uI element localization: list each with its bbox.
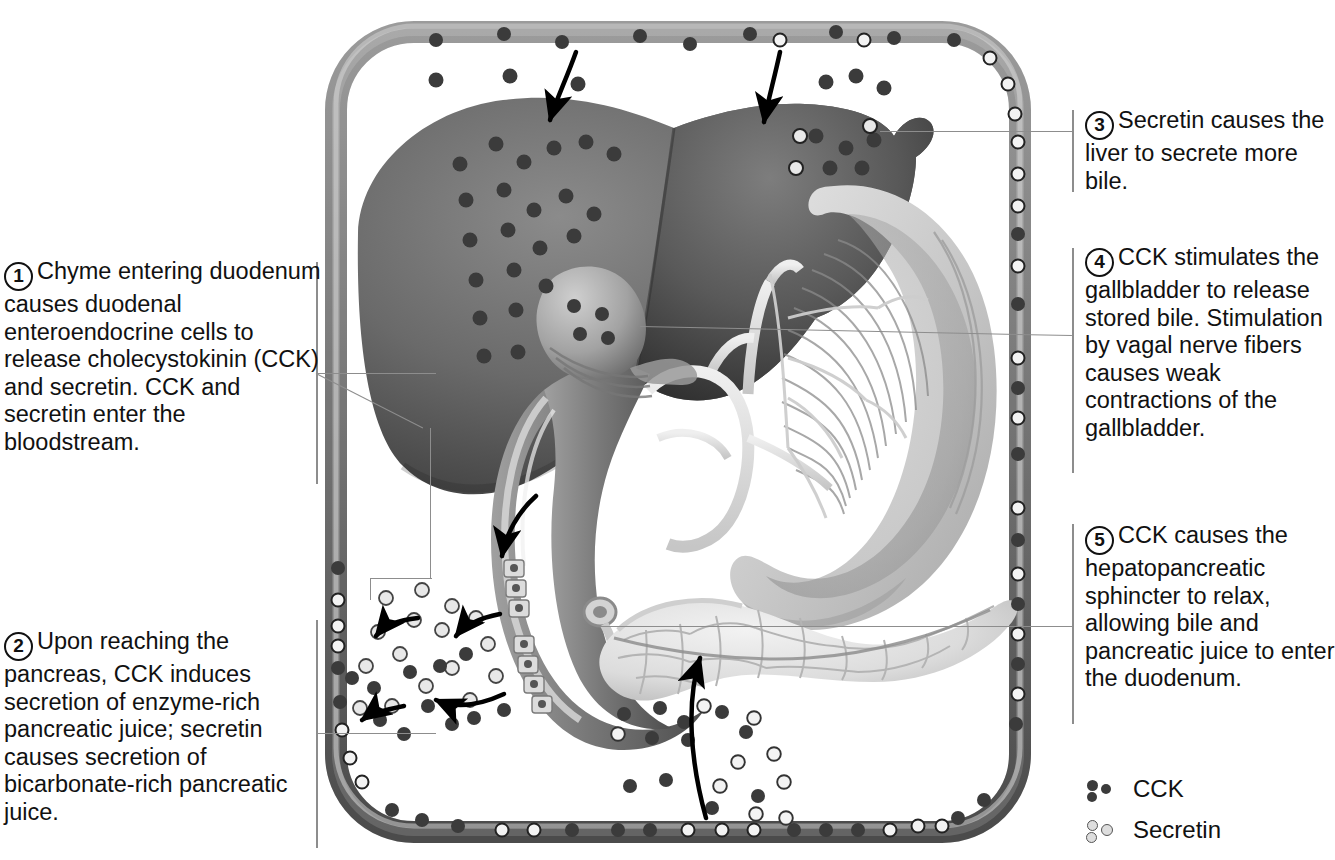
callout-2: 2Upon reaching the pancreas, CCK induces… bbox=[4, 628, 324, 826]
legend-label-cck: CCK bbox=[1133, 768, 1184, 809]
filled-dot-cluster-icon bbox=[1085, 776, 1125, 802]
legend-label-secretin: Secretin bbox=[1133, 809, 1221, 850]
callout-1-number: 1 bbox=[4, 262, 33, 291]
callout-1-text: Chyme entering duodenum causes duodenal … bbox=[4, 258, 320, 455]
leader-callout-1-foot-tick bbox=[370, 578, 371, 600]
figure-root: 1Chyme entering duodenum causes duodenal… bbox=[0, 0, 1335, 860]
bracket-callout-3 bbox=[1072, 110, 1074, 192]
open-circle-cluster-icon bbox=[1085, 817, 1125, 843]
callout-5: 5CCK causes the hepatopancreatic sphinct… bbox=[1085, 522, 1335, 693]
callout-5-number: 5 bbox=[1085, 526, 1114, 555]
legend: CCK Secretin bbox=[1085, 768, 1221, 850]
callout-2-number: 2 bbox=[4, 632, 33, 661]
leader-callout-5 bbox=[600, 626, 1072, 627]
leader-callout-3 bbox=[880, 131, 1072, 132]
callout-3-text: Secretin causes the liver to secrete mor… bbox=[1085, 107, 1324, 194]
callout-4-text: CCK stimulates the gallbladder to releas… bbox=[1085, 244, 1323, 441]
leader-callout-2 bbox=[316, 733, 436, 734]
callout-4-number: 4 bbox=[1085, 248, 1114, 277]
bracket-callout-5 bbox=[1072, 524, 1074, 724]
callout-3-number: 3 bbox=[1085, 111, 1114, 140]
legend-item-secretin: Secretin bbox=[1085, 809, 1221, 850]
callout-2-text: Upon reaching the pancreas, CCK induces … bbox=[4, 628, 287, 825]
legend-item-cck: CCK bbox=[1085, 768, 1221, 809]
leader-callout-1-a bbox=[316, 373, 436, 374]
bracket-callout-4 bbox=[1072, 248, 1074, 473]
leader-callout-1-foot bbox=[370, 578, 432, 579]
leader-callout-1-drop bbox=[430, 428, 431, 578]
callout-5-text: CCK causes the hepatopancreatic sphincte… bbox=[1085, 522, 1335, 691]
callout-4: 4CCK stimulates the gallbladder to relea… bbox=[1085, 244, 1335, 442]
callout-1: 1Chyme entering duodenum causes duodenal… bbox=[4, 258, 324, 456]
anatomy-illustration bbox=[318, 18, 1038, 848]
callout-3: 3Secretin causes the liver to secrete mo… bbox=[1085, 107, 1335, 195]
